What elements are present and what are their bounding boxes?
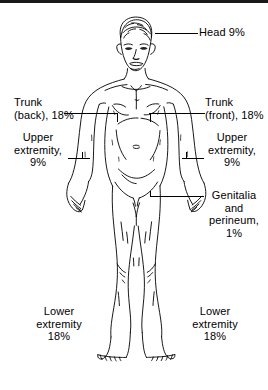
head-outline	[117, 17, 156, 79]
leader-line-trunk-front	[149, 113, 205, 114]
label-upper-extremity-left: Upper extremity, 9%	[8, 131, 68, 169]
label-genitalia-perineum: Genitalia and perineum, 1%	[205, 189, 263, 239]
leader-tick-upper-extremity-left	[82, 152, 83, 159]
leader-tick-trunk-front	[150, 113, 151, 122]
leader-line-genitalia	[150, 196, 204, 197]
label-head: Head 9%	[199, 26, 245, 39]
rule-of-nines-diagram: Head 9% Trunk (back), 18% Trunk (front),…	[0, 0, 268, 390]
label-lower-extremity-right: Lower extremity 18%	[180, 305, 250, 343]
leader-tick-genitalia	[150, 191, 151, 197]
leader-line-upper-extremity-left	[68, 158, 90, 159]
label-trunk-back: Trunk (back), 18%	[14, 96, 74, 121]
groin-outline	[133, 198, 140, 225]
leader-tick-trunk-back	[117, 113, 118, 122]
torso-outline	[69, 79, 204, 198]
leader-tick-upper-extremity-right	[186, 152, 187, 159]
label-upper-extremity-right: Upper extremity, 9%	[201, 131, 263, 169]
feet-outline	[98, 332, 175, 361]
leader-line-head	[155, 33, 198, 34]
label-lower-extremity-left: Lower extremity 18%	[24, 305, 94, 343]
label-trunk-front: Trunk (front), 18%	[205, 96, 264, 121]
legs-outline	[111, 186, 162, 337]
